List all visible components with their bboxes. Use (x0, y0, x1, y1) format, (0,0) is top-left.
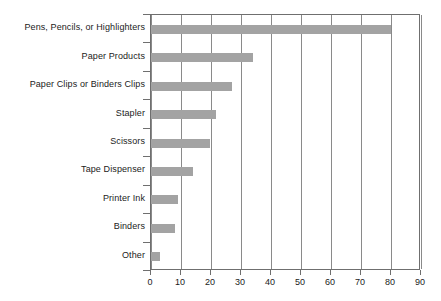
gridline-50 (301, 15, 302, 269)
plot-area (150, 14, 420, 270)
value-tick (240, 270, 241, 275)
bar-chart: Pens, Pencils, or HighlightersPaper Prod… (0, 0, 441, 301)
value-tick (150, 270, 151, 275)
value-tick-label: 10 (165, 277, 195, 287)
value-tick-label: 0 (135, 277, 165, 287)
category-tick (143, 185, 150, 186)
category-label: Printer Ink (0, 193, 145, 203)
category-tick (143, 128, 150, 129)
category-tick (143, 42, 150, 43)
category-tick (143, 14, 150, 15)
gridline-40 (271, 15, 272, 269)
value-tick (300, 270, 301, 275)
value-tick (180, 270, 181, 275)
category-label: Pens, Pencils, or Highlighters (0, 22, 145, 32)
gridline-80 (391, 15, 392, 269)
category-tick (143, 156, 150, 157)
category-tick (143, 99, 150, 100)
category-label: Tape Dispenser (0, 164, 145, 174)
category-label: Paper Products (0, 51, 145, 61)
value-tick-label: 50 (285, 277, 315, 287)
value-tick (390, 270, 391, 275)
bar (151, 53, 253, 62)
category-label: Paper Clips or Binders Clips (0, 79, 145, 89)
bar (151, 139, 210, 148)
gridline-90 (421, 15, 422, 269)
category-tick (143, 242, 150, 243)
value-tick-label: 70 (345, 277, 375, 287)
bar (151, 110, 216, 119)
value-tick-label: 40 (255, 277, 285, 287)
value-tick-label: 30 (225, 277, 255, 287)
value-tick (330, 270, 331, 275)
value-tick-label: 80 (375, 277, 405, 287)
category-label: Scissors (0, 136, 145, 146)
value-tick (420, 270, 421, 275)
value-tick-label: 60 (315, 277, 345, 287)
value-tick (270, 270, 271, 275)
bar (151, 195, 178, 204)
category-tick (143, 270, 150, 271)
bar (151, 82, 232, 91)
category-label: Stapler (0, 108, 145, 118)
category-label: Binders (0, 221, 145, 231)
bar (151, 224, 175, 233)
bar (151, 252, 160, 261)
category-tick (143, 71, 150, 72)
value-tick-label: 90 (405, 277, 435, 287)
bar (151, 167, 193, 176)
value-tick (360, 270, 361, 275)
bar (151, 25, 391, 34)
value-tick (210, 270, 211, 275)
category-label: Other (0, 250, 145, 260)
category-tick (143, 213, 150, 214)
gridline-60 (331, 15, 332, 269)
gridline-70 (361, 15, 362, 269)
value-tick-label: 20 (195, 277, 225, 287)
